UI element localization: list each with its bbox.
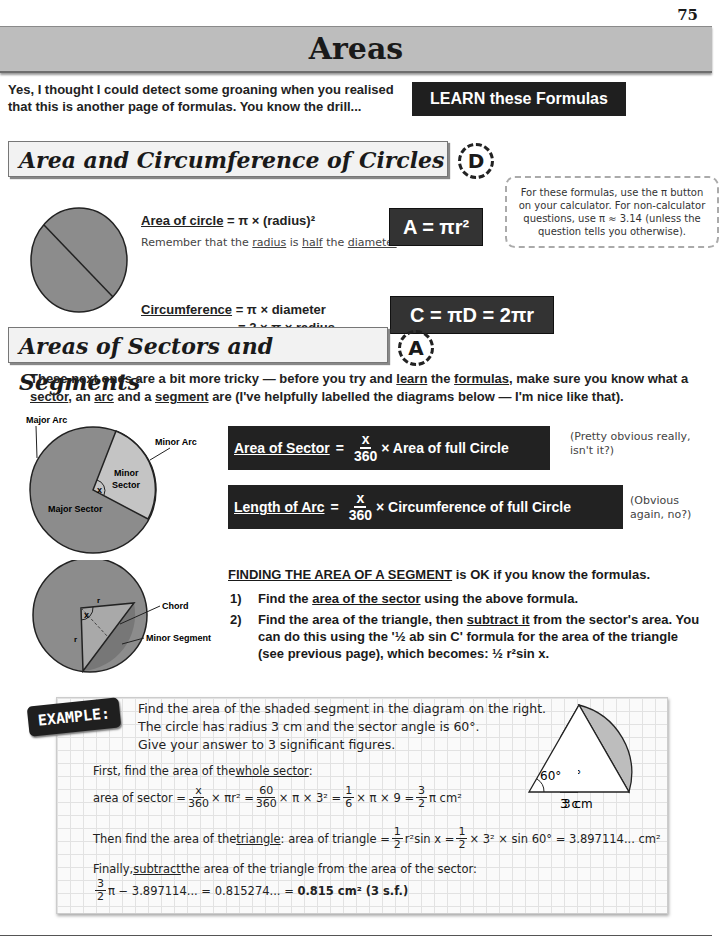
calc-text: × π × 9 = <box>356 791 414 805</box>
step-text: the area of the triangle from the area o… <box>181 862 477 876</box>
step-text-pre: Find the <box>258 591 312 606</box>
para-segment: segment <box>155 389 208 404</box>
fraction: 12 <box>456 826 467 851</box>
step-text: Find the area of the triangle, then subt… <box>258 611 700 662</box>
example-calc3: 32 π − 3.897114... = 0.815274... = 0.815… <box>93 878 653 903</box>
step-text-post: using the above formula. <box>421 591 578 606</box>
segment-heading: FINDING THE AREA OF A SEGMENT is OK if y… <box>228 567 650 582</box>
sector-formula-rhs: × Area of full Circle <box>381 440 508 456</box>
radius-note: Remember that the radius is half the dia… <box>141 236 400 249</box>
sectors-intro: These next ones are a bit more tricky — … <box>30 370 700 406</box>
fraction: x360 <box>354 432 377 464</box>
radius-note-text: the <box>323 236 348 249</box>
question-line: Give your answer to 3 significant figure… <box>138 736 558 754</box>
fraction: x360 <box>188 785 209 810</box>
equals-sign: = <box>330 499 338 515</box>
step-text-pre: Find the area of the triangle, then <box>258 612 467 627</box>
example-step3: Finally, subtract the area of the triang… <box>93 862 653 876</box>
fraction-numerator: x <box>360 432 372 449</box>
circumference-formula-box: C = πD = 2πr <box>390 296 554 334</box>
fraction: 32 <box>95 878 106 903</box>
radius-note-text: Remember that the <box>141 236 252 249</box>
circumference-formula: Circumference = π × diameter <box>141 302 326 317</box>
step-underlined: subtract <box>133 862 181 876</box>
grade-badge-d: D <box>458 143 494 179</box>
step-text-underlined: area of the sector <box>312 591 420 606</box>
page-title: Areas <box>0 27 712 71</box>
para-formulas: formulas <box>454 371 509 386</box>
para-learn: learn <box>396 371 427 386</box>
fraction-denominator: 360 <box>354 449 377 464</box>
arc-aside: (Obvious again, no?) <box>630 494 710 522</box>
angle-x-label: x <box>97 485 102 495</box>
fraction-denominator: 2 <box>458 839 465 851</box>
segment-heading-rest: is OK if you know the formulas. <box>452 567 650 582</box>
segment-heading-title: FINDING THE AREA OF A SEGMENT <box>228 567 452 582</box>
circle-diameter-diagram <box>28 205 130 315</box>
intro-text: Yes, I thought I could detect some groan… <box>8 81 398 115</box>
segment-steps: 1) Find the area of the sector using the… <box>230 590 700 666</box>
fraction-denominator: 2 <box>394 839 401 851</box>
calc-text: × π × 3² = <box>279 791 341 805</box>
minor-sector-label-2: Sector <box>112 480 141 490</box>
learn-formulas-banner: LEARN these Formulas <box>412 82 626 116</box>
area-formula-box: A = πr² <box>389 208 483 246</box>
para-text: These next ones are a bit more tricky — … <box>30 371 396 386</box>
step-text: Finally, <box>93 862 133 876</box>
segment-diagram: x r r Chord Minor Segment <box>0 560 230 690</box>
question-line: Find the area of the shaded segment in t… <box>138 700 558 718</box>
area-of-circle-formula: Area of circle = π × (radius)² <box>141 213 315 228</box>
para-arc: arc <box>94 389 114 404</box>
step-item: 1) Find the area of the sector using the… <box>230 590 700 607</box>
step-number: 1) <box>230 590 258 607</box>
calc-text: area of sector = <box>93 791 186 805</box>
fraction: 60360 <box>256 785 277 810</box>
step-text: : <box>309 764 313 778</box>
radius-note-text: is <box>286 236 302 249</box>
arc-formula-rhs: × Circumference of full Circle <box>376 499 571 515</box>
calc-text: × πr² = <box>211 791 254 805</box>
step-text: : area of triangle = <box>281 832 390 846</box>
para-text: the <box>427 371 454 386</box>
fraction-numerator: x <box>354 491 366 508</box>
major-sector-label: Major Sector <box>48 504 103 514</box>
step-underlined: triangle <box>236 832 280 846</box>
page-title-bar: Areas <box>0 26 712 73</box>
section-heading-sectors: Areas of Sectors and Segments <box>8 327 388 363</box>
radius-term: radius <box>252 236 286 249</box>
sector-aside: (Pretty obvious really, isn't it?) <box>570 430 700 458</box>
para-text: , make sure you know what a <box>509 371 688 386</box>
page-number: 75 <box>677 6 698 24</box>
area-of-circle-label: Area of circle <box>141 213 223 228</box>
fraction: 12 <box>392 826 403 851</box>
section-heading-circles: Area and Circumference of Circles <box>8 141 448 177</box>
calc-text: r²sin x = <box>405 832 455 846</box>
para-text: , an <box>68 389 94 404</box>
calculator-note: For these formulas, use the π button on … <box>505 176 719 248</box>
circumference-label: Circumference <box>141 302 232 317</box>
step-number: 2) <box>230 611 258 662</box>
calc-text: π − 3.897114... = 0.815274... = <box>108 884 294 898</box>
minor-arc-label: Minor Arc <box>155 437 197 447</box>
area-of-circle-rhs: = π × (radius)² <box>223 213 315 228</box>
minor-sector-label-1: Minor <box>114 468 139 478</box>
radius-label-top: r <box>97 596 100 605</box>
example-question: Find the area of the shaded segment in t… <box>138 700 558 754</box>
fraction-denominator: 6 <box>345 798 352 810</box>
fraction-denominator: 2 <box>97 891 104 903</box>
calc-text: × 3² × sin 60° = 3.897114... cm² <box>469 832 660 846</box>
fraction: 16 <box>343 785 354 810</box>
step-text: First, find the area of the <box>93 764 235 778</box>
step-item: 2) Find the area of the triangle, then s… <box>230 611 700 662</box>
sector-area-formula-box: Area of Sector = x360 × Area of full Cir… <box>228 426 550 470</box>
major-arc-pointer <box>36 426 37 458</box>
grade-badge-a: A <box>398 330 434 366</box>
bottom-panel-edge <box>0 935 712 945</box>
step-text: Then find the area of the <box>93 832 236 846</box>
equals-sign: = <box>336 440 344 456</box>
fraction-denominator: 360 <box>256 798 277 810</box>
para-sector: sector <box>30 389 68 404</box>
fraction-denominator: 2 <box>418 798 425 810</box>
chord-label: Chord <box>162 601 189 611</box>
fraction: x360 <box>349 491 372 523</box>
